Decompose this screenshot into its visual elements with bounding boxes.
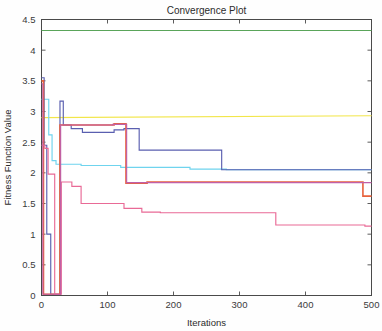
y-tick-label: 1.5 (22, 198, 35, 209)
y-tick-label: 0 (30, 290, 35, 301)
x-tick-label: 0 (39, 299, 44, 310)
convergence-plot-figure: 00.511.522.533.544.50100200300400500Conv… (0, 0, 382, 331)
plot-area-background (42, 20, 372, 296)
x-tick-label: 400 (298, 299, 314, 310)
y-tick-label: 1 (30, 229, 35, 240)
x-tick-label: 500 (364, 299, 380, 310)
y-tick-label: 3.5 (22, 75, 35, 86)
y-tick-label: 4.5 (22, 14, 35, 25)
x-tick-label: 100 (100, 299, 116, 310)
y-axis-title: Fitness Function Value (2, 110, 13, 206)
y-tick-label: 4 (30, 45, 35, 56)
y-tick-label: 3 (30, 106, 35, 117)
x-tick-label: 200 (166, 299, 182, 310)
x-axis-title: Iterations (187, 317, 226, 328)
y-tick-label: 2.5 (22, 137, 35, 148)
y-tick-label: 2 (30, 167, 35, 178)
y-tick-label: 0.5 (22, 259, 35, 270)
chart-title: Convergence Plot (167, 5, 247, 16)
x-tick-label: 300 (232, 299, 248, 310)
convergence-plot-svg: 00.511.522.533.544.50100200300400500Conv… (0, 0, 382, 331)
